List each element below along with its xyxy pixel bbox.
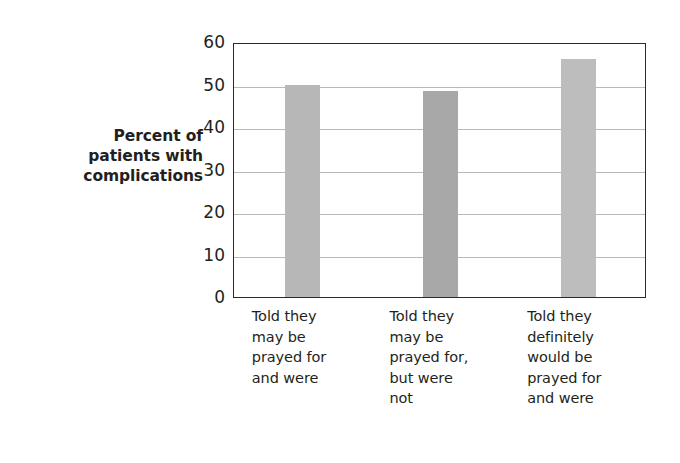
bar-2 xyxy=(423,91,458,297)
y-tick-label-40: 40 xyxy=(185,119,225,136)
y-axis-title-line-3: complications xyxy=(18,166,203,186)
y-tick-label-30: 30 xyxy=(185,162,225,179)
x-category-3-line-5: and were xyxy=(527,388,647,409)
y-tick-label-0: 0 xyxy=(185,289,225,306)
y-axis-title-line-2: patients with xyxy=(18,146,203,166)
x-category-label-3: Told theydefinitelywould beprayed forand… xyxy=(527,306,647,409)
x-category-1-line-2: may be xyxy=(252,327,372,348)
x-category-3-line-1: Told they xyxy=(527,306,647,327)
x-axis-category-labels: Told theymay beprayed forand wereTold th… xyxy=(233,306,646,436)
x-category-label-2: Told theymay beprayed for,but werenot xyxy=(390,306,510,409)
x-category-1-line-1: Told they xyxy=(252,306,372,327)
y-tick-label-10: 10 xyxy=(185,247,225,264)
x-category-2-line-4: but were xyxy=(390,368,510,389)
y-axis-title-line-1: Percent of xyxy=(18,126,203,146)
bar-3 xyxy=(561,59,596,297)
x-category-3-line-2: definitely xyxy=(527,327,647,348)
x-category-3-line-3: would be xyxy=(527,347,647,368)
y-tick-label-50: 50 xyxy=(185,77,225,94)
x-category-2-line-3: prayed for, xyxy=(390,347,510,368)
y-axis-title: Percent of patients with complications xyxy=(18,126,203,186)
bar-1 xyxy=(285,85,320,298)
y-axis-tick-labels: 0102030405060 xyxy=(181,43,225,298)
plot-area xyxy=(233,43,646,298)
x-category-2-line-2: may be xyxy=(390,327,510,348)
x-category-label-1: Told theymay beprayed forand were xyxy=(252,306,372,388)
y-tick-label-60: 60 xyxy=(185,34,225,51)
x-category-2-line-5: not xyxy=(390,388,510,409)
bar-chart-figure: Percent of patients with complications 0… xyxy=(0,0,680,463)
x-category-1-line-3: prayed for xyxy=(252,347,372,368)
x-category-2-line-1: Told they xyxy=(390,306,510,327)
x-category-1-line-4: and were xyxy=(252,368,372,389)
x-category-3-line-4: prayed for xyxy=(527,368,647,389)
y-tick-label-20: 20 xyxy=(185,204,225,221)
